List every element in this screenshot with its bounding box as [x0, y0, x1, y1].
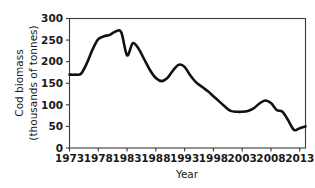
- x-tick-label: 2008: [256, 152, 285, 164]
- chart-svg: 050100150200250300 197319781983198819931…: [0, 0, 315, 188]
- cod-biomass-series-line: [70, 30, 306, 130]
- cod-biomass-line-chart: 050100150200250300 197319781983198819931…: [0, 0, 315, 188]
- x-axis-tick-labels: 197319781983198819931998200320082013: [55, 152, 314, 164]
- y-tick-label: 50: [48, 120, 63, 132]
- x-tick-label: 1998: [199, 152, 228, 164]
- y-axis-tick-labels: 050100150200250300: [41, 12, 63, 154]
- x-axis-title: Year: [175, 168, 199, 180]
- y-axis-title-line2: (thousands of tonnes): [27, 25, 39, 140]
- x-tick-label: 1988: [141, 152, 170, 164]
- plot-frame: [70, 19, 306, 149]
- y-tick-label: 100: [41, 99, 63, 111]
- y-axis-title-line1: Cod biomass: [13, 49, 25, 116]
- x-tick-label: 1978: [84, 152, 113, 164]
- x-tick-label: 1993: [170, 152, 199, 164]
- x-tick-label: 1983: [112, 152, 141, 164]
- x-tick-label: 1973: [55, 152, 84, 164]
- y-tick-label: 150: [41, 77, 63, 89]
- y-tick-label: 250: [41, 34, 63, 46]
- y-tick-label: 200: [41, 55, 63, 67]
- x-tick-label: 2003: [228, 152, 257, 164]
- plot-axes: [70, 19, 306, 149]
- y-tick-label: 300: [41, 12, 63, 24]
- x-tick-label: 2013: [285, 152, 314, 164]
